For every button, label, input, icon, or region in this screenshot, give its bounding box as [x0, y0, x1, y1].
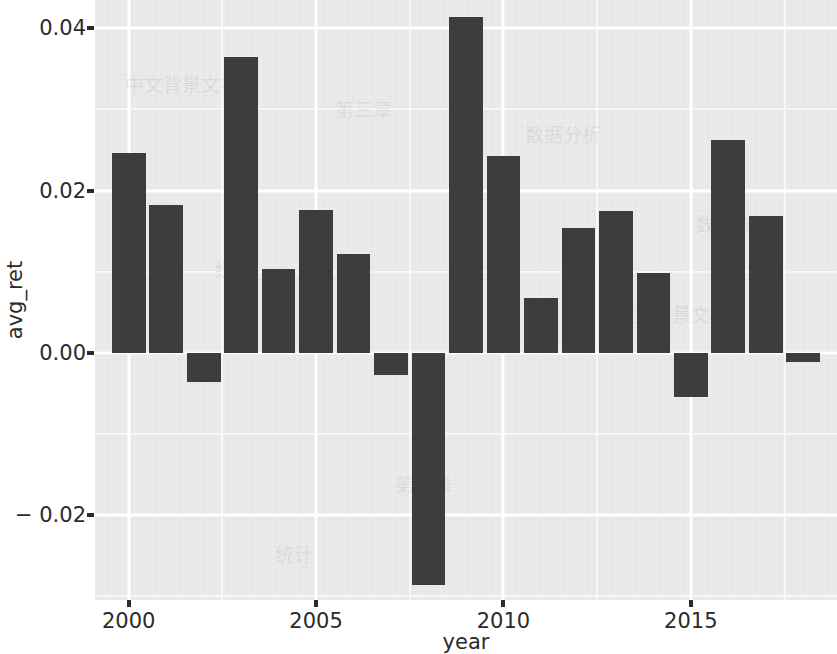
gridline-vertical-minor: [596, 0, 598, 600]
background-bleed-text-item: 统计: [275, 540, 313, 567]
y-tick-label: 0.02: [8, 179, 86, 203]
bar: [674, 353, 708, 398]
bar: [711, 140, 745, 352]
background-bleed-text-item: 数据分析: [525, 120, 601, 147]
bar: [599, 211, 633, 353]
x-axis-ticks: 2000200520102015: [95, 600, 837, 634]
y-tick-mark: [87, 189, 94, 193]
gridline-vertical-minor: [784, 0, 786, 600]
bar: [562, 228, 596, 353]
bar: [299, 210, 333, 353]
x-axis-title-label: year: [443, 630, 490, 654]
bar: [786, 353, 820, 363]
gridline-horizontal-major: [95, 513, 837, 516]
y-tick-mark: [87, 26, 94, 30]
x-tick-mark: [689, 600, 693, 607]
gridline-vertical-minor: [221, 0, 223, 600]
bar: [262, 269, 296, 353]
y-tick-label: 0.04: [8, 16, 86, 40]
y-tick-mark: [87, 513, 94, 517]
gridline-vertical-minor: [409, 0, 411, 600]
x-tick-mark: [314, 600, 318, 607]
bar: [487, 156, 521, 353]
gridline-horizontal-minor: [95, 595, 837, 597]
plot-panel: 中文背景文字第三章数据分析统计中文背景文字第三章数据分析统计: [95, 0, 837, 600]
bar: [749, 216, 783, 353]
y-tick-mark: [87, 351, 94, 355]
bar: [374, 353, 408, 376]
bar: [149, 205, 183, 353]
gridline-horizontal-minor: [95, 433, 837, 435]
x-axis-title: year: [95, 630, 837, 654]
y-tick-label: 0.00: [8, 341, 86, 365]
bar: [337, 254, 371, 353]
y-axis-ticks: 0.040.020.00− 0.02: [0, 0, 86, 600]
x-tick-mark: [501, 600, 505, 607]
gridline-vertical-major: [689, 0, 692, 600]
bar: [524, 298, 558, 353]
bar-chart: avg_ret 0.040.020.00− 0.02 中文背景文字第三章数据分析…: [0, 0, 837, 654]
y-tick-label: − 0.02: [8, 503, 86, 527]
bar: [187, 353, 221, 382]
bar: [112, 153, 146, 352]
x-tick-mark: [127, 600, 131, 607]
bar: [637, 273, 671, 352]
bar: [412, 353, 446, 585]
bar: [224, 57, 258, 353]
bar: [449, 17, 483, 353]
